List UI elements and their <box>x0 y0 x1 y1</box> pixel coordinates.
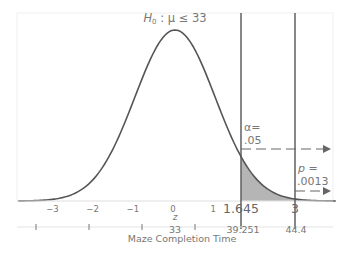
hypothesis-test-chart: H0 : μ ≤ 33 α= .05 p = .0013 −3−2−101 1.… <box>0 0 349 265</box>
plot-frame <box>17 13 333 201</box>
normal-curve <box>18 30 336 201</box>
observed-z-label: 3 <box>291 201 299 216</box>
p-arrowhead-icon <box>323 187 331 195</box>
raw-axis-label: Maze Completion Time <box>128 233 237 244</box>
critical-z-label: 1.645 <box>223 201 259 216</box>
z-axis-label: z <box>172 212 178 222</box>
z-tick-labels: −3−2−101 <box>46 204 216 214</box>
alpha-arrowhead-icon <box>323 145 331 153</box>
z-tick-label: −3 <box>46 204 59 214</box>
raw-observed-label: 44.4 <box>285 224 306 235</box>
z-tick-label: −1 <box>127 204 140 214</box>
z-tick-label: −2 <box>86 204 99 214</box>
p-value: .0013 <box>297 175 329 188</box>
p-label: p = <box>297 162 318 175</box>
alpha-value: .05 <box>244 134 262 147</box>
z-tick-label: 1 <box>210 204 215 214</box>
alpha-label: α= <box>244 121 260 134</box>
